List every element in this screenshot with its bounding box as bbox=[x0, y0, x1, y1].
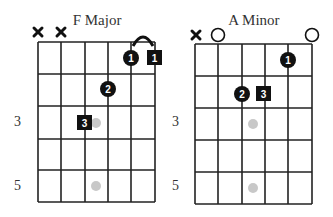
svg-text:2: 2 bbox=[239, 89, 245, 100]
svg-text:3: 3 bbox=[82, 118, 88, 129]
muted-x-icon bbox=[192, 31, 200, 39]
svg-text:2: 2 bbox=[105, 84, 111, 95]
fret-inlay-icon bbox=[248, 183, 258, 193]
open-string-icon bbox=[306, 29, 319, 42]
finger-1-square-icon: 1 bbox=[147, 50, 162, 65]
muted-x-icon bbox=[34, 28, 42, 36]
finger-1-circle-icon: 1 bbox=[280, 52, 296, 68]
finger-1-circle-icon: 1 bbox=[123, 50, 139, 66]
finger-2-circle-icon: 2 bbox=[100, 81, 116, 97]
svg-text:1: 1 bbox=[152, 53, 158, 64]
fret-inlay-icon bbox=[91, 118, 101, 128]
finger-3-square-icon: 3 bbox=[256, 86, 271, 101]
svg-text:1: 1 bbox=[128, 53, 134, 64]
open-string-icon bbox=[212, 29, 225, 42]
finger-2-circle-icon: 2 bbox=[234, 86, 250, 102]
svg-text:3: 3 bbox=[261, 89, 267, 100]
fret-inlay-icon bbox=[248, 119, 258, 129]
svg-text:1: 1 bbox=[285, 55, 291, 66]
muted-x-icon bbox=[57, 28, 65, 36]
fretboard-graphics: 1 1 2 3 1 2 3 bbox=[0, 0, 333, 217]
fret-inlay-icon bbox=[91, 181, 101, 191]
finger-3-square-icon: 3 bbox=[77, 115, 92, 130]
